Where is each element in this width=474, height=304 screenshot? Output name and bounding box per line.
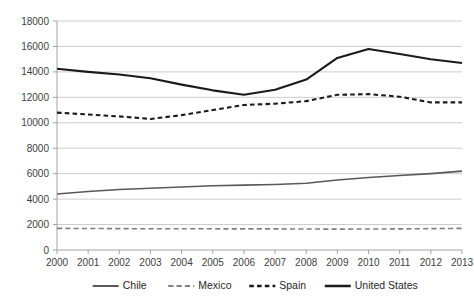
y-axis-tick-label: 18000 [21,16,49,27]
x-axis-tick-label: 2007 [264,257,287,268]
legend-item-label: Mexico [198,279,231,291]
x-axis-tick-label: 2011 [389,257,411,268]
legend-item-label: Chile [123,279,147,291]
y-axis-tick-label: 14000 [21,66,49,77]
y-axis-tick-label: 16000 [21,41,49,52]
line-chart: 0200040006000800010000120001400016000180… [0,0,474,304]
legend-item-label: Spain [279,279,306,291]
x-axis-tick-label: 2010 [357,257,380,268]
x-axis-tick-label: 2012 [420,257,443,268]
y-axis-tick-label: 8000 [27,143,50,154]
y-axis-tick-label: 6000 [27,168,50,179]
x-axis-tick-label: 2005 [202,257,225,268]
y-axis-tick-label: 10000 [21,117,49,128]
x-axis-tick-label: 2001 [77,257,100,268]
y-axis-tick-label: 0 [43,245,49,256]
legend-item-label: United States [355,279,418,291]
y-axis-tick-label: 12000 [21,92,49,103]
x-axis-tick-label: 2002 [108,257,131,268]
x-axis-tick-label: 2013 [451,257,474,268]
x-axis-tick-label: 2003 [139,257,162,268]
y-axis-tick-label: 4000 [27,194,50,205]
x-axis-tick-label: 2008 [295,257,318,268]
y-axis-tick-label: 2000 [27,219,50,230]
x-axis-tick-label: 2006 [233,257,256,268]
x-axis-tick-label: 2004 [170,257,193,268]
x-axis-tick-label: 2000 [46,257,69,268]
x-axis-tick-label: 2009 [326,257,349,268]
series-line-mexico [57,228,462,229]
chart-canvas: 0200040006000800010000120001400016000180… [0,0,474,304]
